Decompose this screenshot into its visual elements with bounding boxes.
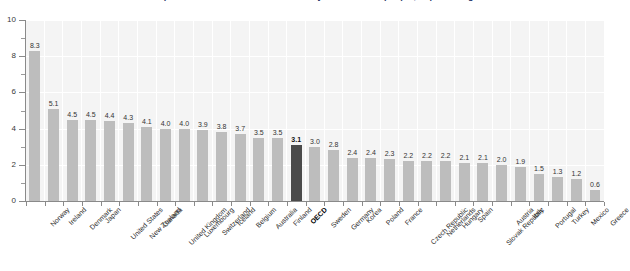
bar-slot[interactable]: 1.9 — [511, 20, 530, 201]
bar-slot[interactable]: 2.1 — [455, 20, 474, 201]
bar-slot[interactable]: 2.4 — [343, 20, 362, 201]
x-axis-category-label: OECD — [309, 206, 328, 225]
bar-slot[interactable]: 2.8 — [325, 20, 344, 201]
bar-value-label: 1.2 — [571, 170, 581, 177]
x-axis-category-label: Mexico — [590, 206, 611, 227]
bar-value-label: 1.3 — [553, 168, 563, 175]
x-axis-category-label: Norway — [49, 206, 71, 228]
bar-slot[interactable]: 4.3 — [119, 20, 138, 201]
bar-slot[interactable]: 4.5 — [63, 20, 82, 201]
bar-series: 8.35.14.54.54.44.34.14.04.03.93.83.73.53… — [26, 20, 604, 201]
bar-value-label: 2.0 — [497, 156, 507, 163]
bar-value-label: 4.0 — [179, 120, 189, 127]
bar[interactable] — [309, 147, 320, 201]
plot-area: 8.35.14.54.54.44.34.14.04.03.93.83.73.53… — [26, 20, 604, 201]
bar[interactable] — [123, 123, 134, 201]
x-axis-labels: NorwayIrelandDenmarkJapanUnited StatesNe… — [26, 206, 604, 271]
bar[interactable] — [104, 121, 115, 201]
bar-slot[interactable]: 2.2 — [399, 20, 418, 201]
bar-slot[interactable]: 2.2 — [437, 20, 456, 201]
bar-value-label: 4.4 — [105, 112, 115, 119]
bar[interactable] — [403, 161, 414, 201]
bar-value-label: 3.5 — [273, 129, 283, 136]
bar-value-label: 2.2 — [441, 152, 451, 159]
bar-value-label: 2.3 — [385, 150, 395, 157]
bar-slot[interactable]: 4.1 — [138, 20, 157, 201]
bar[interactable] — [253, 138, 264, 201]
bar-slot[interactable]: 3.5 — [269, 20, 288, 201]
bar[interactable] — [515, 167, 526, 201]
bar[interactable] — [496, 165, 507, 201]
bar[interactable] — [179, 129, 190, 201]
bar[interactable] — [347, 158, 358, 201]
bar-slot[interactable]: 3.5 — [250, 20, 269, 201]
bar-oecd-average[interactable] — [291, 145, 302, 201]
bar-slot[interactable]: 2.1 — [474, 20, 493, 201]
bar-value-label: 2.1 — [459, 154, 469, 161]
bar[interactable] — [141, 127, 152, 201]
bar-slot[interactable]: 1.3 — [549, 20, 568, 201]
y-tick-major — [19, 165, 25, 166]
y-axis-tick-label: 6 — [0, 88, 16, 96]
bar-value-label: 3.7 — [235, 125, 245, 132]
bar-slot[interactable]: 3.9 — [194, 20, 213, 201]
y-axis-tick-label: 10 — [0, 16, 16, 24]
bar-slot[interactable]: 1.2 — [567, 20, 586, 201]
y-tick-major — [19, 92, 25, 93]
bar[interactable] — [365, 158, 376, 201]
bar-slot[interactable]: 2.0 — [493, 20, 512, 201]
y-tick-minor — [21, 147, 25, 148]
bar[interactable] — [48, 109, 59, 201]
bar-slot[interactable]: 5.1 — [45, 20, 64, 201]
bar[interactable] — [29, 51, 40, 201]
bar-slot[interactable]: 4.5 — [82, 20, 101, 201]
bar[interactable] — [440, 161, 451, 201]
bar-slot[interactable]: 2.3 — [381, 20, 400, 201]
y-tick-minor — [21, 111, 25, 112]
y-tick-minor — [21, 38, 25, 39]
bar-value-label: 4.1 — [142, 118, 152, 125]
bar-slot[interactable]: 0.6 — [586, 20, 604, 201]
bar-value-label: 3.1 — [291, 136, 301, 143]
bar-value-label: 2.2 — [422, 152, 432, 159]
bar[interactable] — [477, 163, 488, 201]
bar-slot[interactable]: 4.0 — [175, 20, 194, 201]
x-axis-category-label: United Kingdom — [187, 206, 227, 246]
bar-slot[interactable]: 4.0 — [157, 20, 176, 201]
bar-slot[interactable]: 2.4 — [362, 20, 381, 201]
bar[interactable] — [160, 129, 171, 201]
bar-value-label: 3.0 — [310, 138, 320, 145]
bar[interactable] — [421, 161, 432, 201]
bar[interactable] — [216, 132, 227, 201]
x-axis-category-label: Greece — [608, 206, 629, 227]
bar[interactable] — [272, 138, 283, 201]
y-axis-tick-label: 0 — [0, 197, 16, 205]
bar-slot[interactable]: 2.2 — [418, 20, 437, 201]
bar[interactable] — [534, 174, 545, 201]
y-tick-major — [19, 129, 25, 130]
bar[interactable] — [328, 150, 339, 201]
bar[interactable] — [67, 120, 78, 201]
bar[interactable] — [571, 179, 582, 201]
bar[interactable] — [85, 120, 96, 201]
bar[interactable] — [235, 134, 246, 201]
y-axis-tick-label: 2 — [0, 161, 16, 169]
bar[interactable] — [197, 130, 208, 201]
chart-title: Public social expenditure on services fo… — [0, 0, 607, 1]
bar-value-label: 3.9 — [198, 121, 208, 128]
y-tick-major — [19, 56, 25, 57]
bar-value-label: 2.8 — [329, 141, 339, 148]
bar[interactable] — [552, 177, 563, 201]
bar-slot[interactable]: 3.0 — [306, 20, 325, 201]
bar[interactable] — [590, 190, 601, 201]
bar-slot[interactable]: 1.5 — [530, 20, 549, 201]
bar-value-label: 2.1 — [478, 154, 488, 161]
bar-slot[interactable]: 4.4 — [101, 20, 120, 201]
bar-slot[interactable]: 8.3 — [26, 20, 45, 201]
bar-slot[interactable]: 3.7 — [231, 20, 250, 201]
bar-slot[interactable]: 3.1 — [287, 20, 306, 201]
bar-slot[interactable]: 3.8 — [213, 20, 232, 201]
bar[interactable] — [459, 163, 470, 201]
bar[interactable] — [384, 159, 395, 201]
bar-value-label: 2.2 — [403, 152, 413, 159]
